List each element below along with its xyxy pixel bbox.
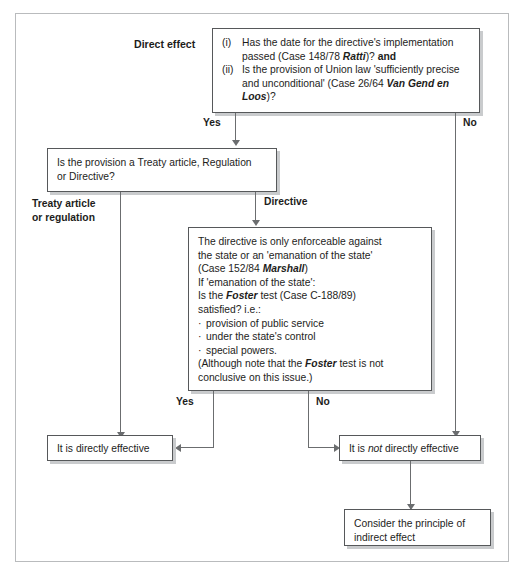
arrow-directive	[252, 220, 260, 226]
item-ii-marker: (ii)	[222, 63, 233, 77]
criteria-item: · special powers.	[198, 344, 422, 358]
label-no-bottom: No	[316, 395, 330, 408]
connector-yes-bottom-horizontal	[180, 447, 214, 448]
item-i-marker: (i)	[222, 36, 231, 50]
item-i-and: and	[378, 51, 396, 62]
not-directly-effective-pre: It is	[349, 443, 368, 454]
box-directly-effective: It is directly effective	[47, 435, 173, 461]
not-directly-effective-emphasis: not	[368, 443, 382, 454]
foster-note-post: test is not	[337, 358, 384, 369]
not-directly-effective-post: directly effective	[382, 443, 459, 454]
item-ii-line3: Loos)?	[242, 90, 470, 104]
item-i-line2: passed (Case 148/78 Ratti)? and	[242, 50, 470, 64]
connector-yes-bottom-vertical	[213, 391, 214, 448]
case-foster: Foster	[226, 290, 257, 301]
box-direct-effect-question: (i) Has the date for the directive's imp…	[212, 28, 480, 113]
connector-directive	[255, 192, 256, 222]
connector-treaty-article	[120, 192, 121, 436]
indirect-effect-line1: Consider the principle of	[354, 517, 481, 531]
case-marshall-post: )	[304, 263, 307, 274]
case-ratti: Ratti	[343, 51, 366, 62]
enforceability-line3: (Case 152/84 Marshall)	[198, 262, 422, 276]
connector-to-indirect-effect	[410, 461, 411, 509]
enforceability-line4: If 'emanation of the state':	[198, 276, 422, 290]
enforceability-line2: the state or an 'emanation of the state'	[198, 249, 422, 263]
bullet-dot-icon: ·	[198, 330, 201, 344]
label-treaty-article-line1: Treaty article	[32, 197, 96, 210]
foster-note-pre: (Although note that the	[198, 358, 305, 369]
foster-test-post: test (Case C-188/89)	[258, 290, 356, 301]
foster-test-criteria: · provision of public service · under th…	[198, 317, 422, 358]
connector-no-bottom-horizontal	[308, 447, 336, 448]
item-ii-line2-pre: and unconditional' (Case 26/64	[242, 78, 387, 89]
label-no-top: No	[463, 116, 477, 129]
item-ii-line3-post: )?	[267, 91, 276, 102]
provision-question-line1: Is the provision a Treaty article, Regul…	[57, 156, 267, 170]
connector-no-top	[455, 113, 456, 435]
item-i-line1: Has the date for the directive's impleme…	[242, 36, 470, 50]
direct-effect-question-list: (i) Has the date for the directive's imp…	[222, 36, 470, 104]
case-van-gend-en-loos-part2: Loos	[242, 91, 267, 102]
flowchart-page: Direct effect (i) Has the date for the d…	[0, 0, 526, 576]
directly-effective-text: It is directly effective	[57, 443, 150, 454]
enforceability-line1: The directive is only enforceable agains…	[198, 235, 422, 249]
foster-test-pre: Is the	[198, 290, 226, 301]
enforceability-line5: Is the Foster test (Case C-188/89)	[198, 289, 422, 303]
criteria-special-powers: special powers.	[206, 345, 277, 356]
label-treaty-article-line2: or regulation	[32, 211, 95, 224]
criteria-item: · under the state's control	[198, 330, 422, 344]
connector-no-bottom-vertical	[308, 391, 309, 448]
arrow-yes-top	[232, 140, 240, 146]
provision-question-line2: or Directive?	[57, 170, 267, 184]
enforceability-line8: conclusive on this issue.)	[198, 371, 422, 385]
case-marshall: Marshall	[263, 263, 305, 274]
arrow-yes-bottom	[175, 444, 181, 452]
diagram-frame: Direct effect (i) Has the date for the d…	[15, 13, 509, 562]
question-item-ii: (ii) Is the provision of Union law 'suff…	[222, 63, 470, 104]
direct-effect-caption: Direct effect	[134, 38, 195, 50]
enforceability-line7: (Although note that the Foster test is n…	[198, 357, 422, 371]
box-not-directly-effective: It is not directly effective	[339, 435, 481, 461]
item-i-line2-pre: passed (Case 148/78	[242, 51, 343, 62]
indirect-effect-line2: indirect effect	[354, 531, 481, 545]
case-van-gend-en-loos-part1: Van Gend en	[387, 78, 450, 89]
bullet-dot-icon: ·	[198, 317, 201, 331]
criteria-state-control: under the state's control	[206, 331, 316, 342]
label-directive: Directive	[264, 195, 308, 208]
label-yes-top: Yes	[203, 116, 221, 129]
bullet-dot-icon: ·	[198, 344, 201, 358]
connector-yes-top	[235, 113, 236, 142]
item-ii-line2: and unconditional' (Case 26/64 Van Gend …	[242, 77, 470, 91]
criteria-item: · provision of public service	[198, 317, 422, 331]
case-foster-note: Foster	[305, 358, 336, 369]
item-ii-line1: Is the provision of Union law 'sufficien…	[242, 63, 470, 77]
box-directive-enforceability: The directive is only enforceable agains…	[188, 227, 432, 391]
enforceability-line6: satisfied? i.e.:	[198, 303, 422, 317]
box-provision-type-question: Is the provision a Treaty article, Regul…	[47, 148, 277, 192]
question-item-i: (i) Has the date for the directive's imp…	[222, 36, 470, 63]
label-yes-bottom: Yes	[176, 395, 194, 408]
box-indirect-effect: Consider the principle of indirect effec…	[344, 509, 491, 546]
case-marshall-pre: (Case 152/84	[198, 263, 263, 274]
item-i-line2-post: )?	[366, 51, 378, 62]
criteria-public-service: provision of public service	[206, 318, 324, 329]
